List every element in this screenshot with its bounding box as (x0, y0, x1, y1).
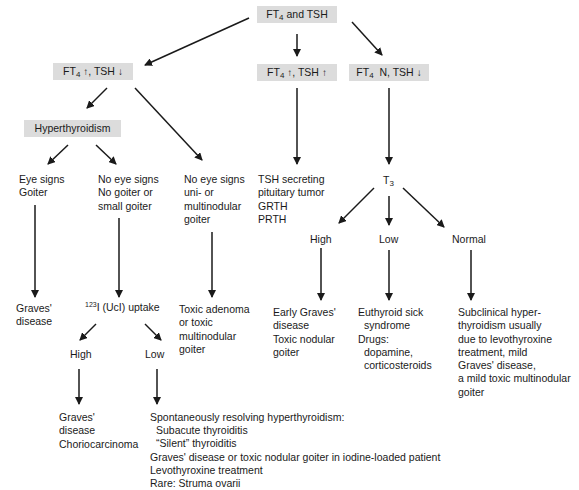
node-hyperthyroidism: Hyperthyroidism (24, 120, 121, 137)
node-no-eye-signs-small-goiter: No eye signs No goiter or small goiter (98, 173, 159, 213)
node-subclinical: Subclinical hyper- thyroidism usually du… (458, 306, 571, 399)
node-ft4-up-tsh-down: FT4 ↑, TSH ↓ (53, 63, 133, 80)
node-root: FT4 and TSH (257, 6, 337, 23)
node-euthyroid-sick: Euthyroid sick syndrome Drugs: dopamine,… (358, 306, 432, 372)
node-t3: T3 (383, 174, 394, 187)
node-t3-high: High (310, 233, 332, 246)
node-graves-disease: Graves' disease (16, 302, 52, 329)
node-ft4-up-tsh-up: FT4 ↑, TSH ↑ (257, 64, 337, 81)
up-arrow-icon: ↑ (322, 67, 327, 78)
node-no-eye-signs-nodular-goiter: No eye signs uni- or multinodular goiter (184, 173, 245, 226)
node-eye-signs: Eye signs Goiter (19, 173, 65, 200)
node-graves-choriocarcinoma: Graves' disease Choriocarcinoma (59, 411, 138, 451)
node-t3-low: Low (379, 233, 398, 246)
node-low-uptake-causes: Spontaneously resolving hyperthyroidism:… (150, 411, 440, 490)
node-uptake-high: High (70, 348, 92, 361)
node-tsh-secreting-tumor: TSH secreting pituitary tumor GRTH PRTH (258, 173, 325, 226)
node-ft4-n-tsh-down: FT4 N, TSH ↓ (349, 64, 429, 81)
down-arrow-icon: ↓ (417, 67, 422, 78)
node-uptake: 123I (UcI) uptake (85, 301, 160, 314)
down-arrow-icon: ↓ (118, 66, 123, 77)
node-t3-normal: Normal (452, 233, 486, 246)
node-uptake-low: Low (145, 348, 164, 361)
node-early-graves: Early Graves' disease Toxic nodular goit… (273, 306, 336, 359)
node-toxic-adenoma: Toxic adenoma or toxic multinodular goit… (179, 303, 250, 356)
